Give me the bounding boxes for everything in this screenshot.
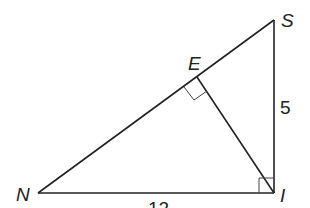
triangle-diagram: S E N I 5 12 bbox=[0, 0, 310, 208]
segment-NS bbox=[38, 20, 274, 193]
right-angle-mark-E bbox=[184, 87, 207, 100]
side-label-SI: 5 bbox=[280, 97, 291, 118]
side-label-NI: 12 bbox=[148, 198, 169, 208]
label-S: S bbox=[281, 10, 294, 31]
label-N: N bbox=[16, 184, 30, 205]
label-I: I bbox=[280, 185, 286, 206]
segment-EI bbox=[197, 77, 274, 193]
label-E: E bbox=[188, 53, 201, 74]
